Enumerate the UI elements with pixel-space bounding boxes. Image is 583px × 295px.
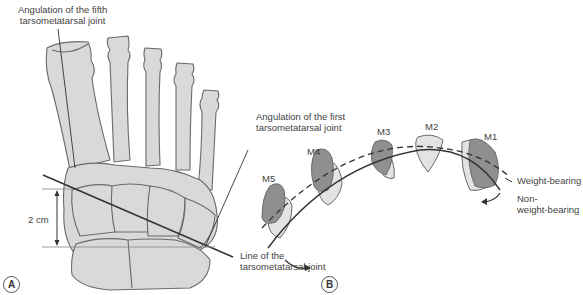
metatarsal-1: [46, 42, 110, 170]
weight-bearing-label: Weight-bearing: [517, 175, 581, 186]
metatarsal-2: [107, 36, 130, 162]
fifth-angulation-label: Angulation of the fifth tarsometatarsal …: [18, 4, 107, 26]
label-line: tarsometatarsal joint: [240, 261, 326, 272]
panel-a-tag: A: [3, 276, 20, 293]
metatarsal-4: [174, 63, 194, 170]
label-line: tarsometatarsal joint: [256, 122, 345, 133]
label-line: tarsometatarsal joint: [18, 15, 107, 26]
m2-label: M2: [425, 121, 438, 132]
first-angulation-label: Angulation of the first tarsometatarsal …: [256, 111, 345, 133]
hindfoot-bones: [72, 239, 211, 290]
metatarsal-5: [198, 90, 219, 190]
distance-label: 2 cm: [28, 214, 49, 225]
label-line: weight-bearing: [517, 204, 579, 215]
m4-label: M4: [307, 146, 320, 157]
label-line: Angulation of the fifth: [18, 4, 107, 15]
m1-label: M1: [484, 131, 497, 142]
m5-label: M5: [262, 173, 275, 184]
m1-dark: [469, 139, 499, 188]
label-line: Angulation of the first: [256, 111, 345, 122]
label-line: Non-: [517, 193, 579, 204]
m3-label: M3: [377, 126, 390, 137]
label-line: Line of the: [240, 250, 326, 261]
non-weight-bearing-label: Non- weight-bearing: [517, 193, 579, 215]
tmt-line-label: Line of the tarsometatarsal joint: [240, 250, 326, 272]
panel-b-tag: B: [321, 276, 338, 293]
m2: [416, 135, 443, 172]
metatarsal-3: [144, 48, 162, 166]
